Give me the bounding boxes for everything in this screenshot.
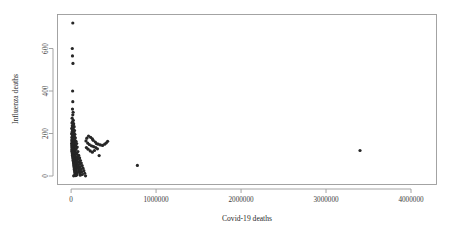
data-point [72, 174, 75, 177]
x-tick-label: 0 [69, 196, 73, 204]
data-point [106, 140, 109, 143]
data-point [98, 154, 101, 157]
y-axis-title: Influenza deaths [11, 74, 20, 124]
data-point [71, 107, 74, 110]
data-point [71, 47, 74, 50]
y-tick-label: 600 [42, 43, 50, 54]
data-point [71, 21, 74, 24]
x-tick-label: 2000000 [228, 196, 254, 204]
data-point [71, 113, 74, 116]
y-tick-label: 400 [42, 85, 50, 96]
y-tick-label: 200 [42, 128, 50, 139]
data-point [79, 174, 82, 177]
data-point [85, 146, 88, 149]
data-point [71, 54, 74, 57]
x-tick-label: 4000000 [398, 196, 424, 204]
x-axis-title: Covid-19 deaths [222, 214, 272, 223]
figure-background [0, 0, 452, 235]
plot-canvas: 01000000200000030000004000000 0200400600… [0, 0, 452, 235]
data-point [85, 137, 88, 140]
x-tick-label: 1000000 [143, 196, 169, 204]
scatter-plot-figure: 01000000200000030000004000000 0200400600… [0, 0, 452, 235]
data-point [358, 149, 361, 152]
data-point [84, 174, 87, 177]
data-point [96, 147, 99, 150]
data-point [71, 100, 74, 103]
data-point [71, 89, 74, 92]
x-tick-label: 3000000 [313, 196, 339, 204]
data-point [71, 62, 74, 65]
data-point [136, 164, 139, 167]
y-tick-label: 0 [42, 174, 50, 178]
